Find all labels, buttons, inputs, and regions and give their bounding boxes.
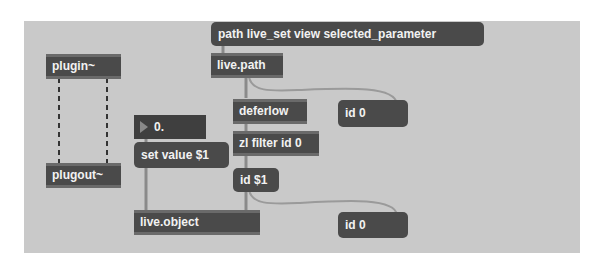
id-dollar1-message[interactable]: id $1 <box>233 168 279 192</box>
zl-filter-object[interactable]: zl filter id 0 <box>233 131 319 156</box>
id-0-message-bottom[interactable]: id 0 <box>338 212 408 238</box>
plugin-object[interactable]: plugin~ <box>46 54 121 79</box>
live-path-object[interactable]: live.path <box>211 53 283 78</box>
live-object-object[interactable]: live.object <box>134 210 260 235</box>
id-0-message-top[interactable]: id 0 <box>338 100 408 127</box>
path-message[interactable]: path live_set view selected_parameter <box>211 22 484 46</box>
float-number-box[interactable]: 0. <box>134 115 206 139</box>
triangle-icon <box>140 121 148 133</box>
plugout-object[interactable]: plugout~ <box>46 163 121 188</box>
set-value-message[interactable]: set value $1 <box>134 142 229 168</box>
number-value: 0. <box>154 120 164 134</box>
deferlow-object[interactable]: deferlow <box>233 99 307 124</box>
